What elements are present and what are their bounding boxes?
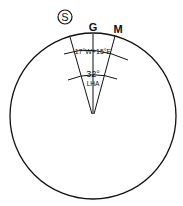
celestial-diagram: S G M 17°W+15°E 32° LHA (0, 0, 183, 206)
lha-value: 32° (86, 69, 100, 79)
lha-label: LHA (87, 80, 100, 87)
longitude-label: 17°W+15°E (75, 48, 112, 55)
hemisphere-label: S (61, 11, 68, 23)
body-label: M (113, 23, 122, 35)
greenwich-label: G (89, 21, 98, 33)
